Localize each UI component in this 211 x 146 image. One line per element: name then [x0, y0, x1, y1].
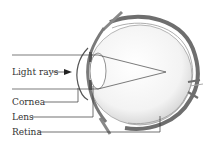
label-retina: Retina — [12, 127, 42, 137]
eye-diagram: Light rays Cornea Lens Retina — [0, 0, 211, 146]
label-lens: Lens — [12, 112, 34, 122]
label-cornea: Cornea — [12, 97, 46, 107]
lens — [90, 53, 106, 89]
label-light-rays: Light rays — [12, 67, 59, 77]
leader-cornea — [44, 88, 78, 102]
arrow-icon — [64, 69, 72, 75]
